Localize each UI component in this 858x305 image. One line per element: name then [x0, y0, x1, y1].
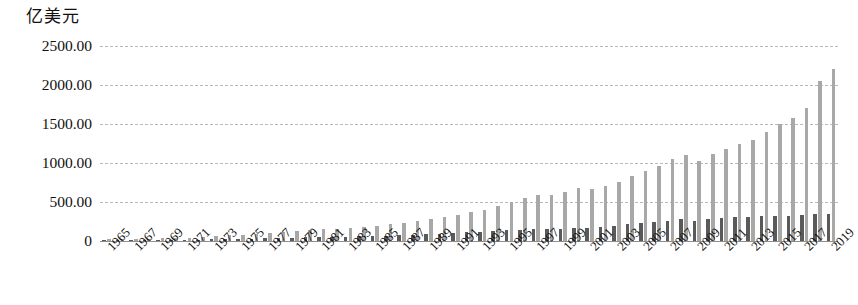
bar-group	[610, 46, 623, 241]
y-tick-label: 500.00	[6, 193, 92, 211]
bar-group	[664, 46, 677, 241]
bar-light	[778, 124, 782, 241]
bar-group	[449, 46, 462, 241]
bar-light	[751, 140, 755, 241]
bar-group	[207, 46, 220, 241]
y-tick-label: 1000.00	[6, 154, 92, 172]
bar-group	[409, 46, 422, 241]
bar-group	[462, 46, 475, 241]
bar-group	[570, 46, 583, 241]
bar-group	[744, 46, 757, 241]
bar-light	[671, 159, 675, 241]
plot-area	[100, 46, 838, 241]
bar-group	[717, 46, 730, 241]
y-tick-label: 2000.00	[6, 76, 92, 94]
bar-group	[677, 46, 690, 241]
bar-group	[127, 46, 140, 241]
bar-group	[194, 46, 207, 241]
bar-group	[784, 46, 797, 241]
bar-group	[342, 46, 355, 241]
bar-light	[832, 69, 836, 241]
bar-group	[623, 46, 636, 241]
y-axis-tick-labels: 0500.001000.001500.002000.002500.00	[0, 46, 92, 241]
bar-series-group	[100, 46, 838, 241]
bar-light	[791, 118, 795, 241]
y-tick-label: 0	[6, 232, 92, 250]
bar-light	[644, 171, 648, 241]
bar-group	[516, 46, 529, 241]
bar-group	[221, 46, 234, 241]
bar-group	[355, 46, 368, 241]
y-axis-unit-title: 亿美元	[26, 2, 80, 27]
bar-group	[167, 46, 180, 241]
bar-group	[583, 46, 596, 241]
bar-group	[690, 46, 703, 241]
y-tick-label: 2500.00	[6, 37, 92, 55]
bar-group	[503, 46, 516, 241]
bar-light	[617, 182, 621, 241]
bar-group	[476, 46, 489, 241]
bar-group	[811, 46, 824, 241]
bar-group	[261, 46, 274, 241]
bar-group	[704, 46, 717, 241]
bar-light	[805, 108, 809, 241]
bar-group	[529, 46, 542, 241]
bar-group	[274, 46, 287, 241]
bar-group	[288, 46, 301, 241]
y-tick-label: 1500.00	[6, 115, 92, 133]
bar-group	[489, 46, 502, 241]
bar-group	[650, 46, 663, 241]
bar-group	[596, 46, 609, 241]
bar-group	[435, 46, 448, 241]
bar-group	[368, 46, 381, 241]
bar-group	[757, 46, 770, 241]
bar-light	[563, 192, 567, 241]
bar-group	[825, 46, 838, 241]
bar-group	[395, 46, 408, 241]
x-axis-tick-labels: 1965196719691971197319751977197919811983…	[100, 243, 838, 305]
bar-group	[543, 46, 556, 241]
bar-group	[637, 46, 650, 241]
bar-light	[724, 149, 728, 242]
bar-group	[234, 46, 247, 241]
bar-light	[697, 161, 701, 241]
bar-group	[328, 46, 341, 241]
bar-group	[248, 46, 261, 241]
bar-light	[818, 81, 822, 241]
bar-group	[100, 46, 113, 241]
bar-group	[154, 46, 167, 241]
bar-group	[140, 46, 153, 241]
bar-group	[556, 46, 569, 241]
bar-group	[113, 46, 126, 241]
bar-group	[301, 46, 314, 241]
bar-light	[536, 195, 540, 241]
bar-light	[590, 189, 594, 241]
bar-group	[181, 46, 194, 241]
bar-group	[422, 46, 435, 241]
bar-group	[315, 46, 328, 241]
bar-group	[382, 46, 395, 241]
bar-group	[731, 46, 744, 241]
bar-group	[798, 46, 811, 241]
bar-group	[771, 46, 784, 241]
